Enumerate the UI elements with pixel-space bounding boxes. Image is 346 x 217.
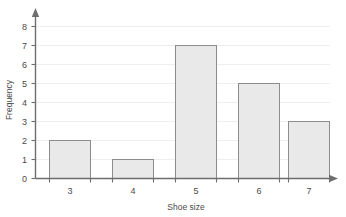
y-tick-label-1: 1 [22, 155, 27, 165]
y-tick-label-6: 6 [22, 60, 27, 70]
chart-background [0, 0, 346, 217]
y-tick-label-0: 0 [22, 174, 27, 184]
y-tick-label-7: 7 [22, 41, 27, 51]
bar-shoe-size-3 [50, 141, 91, 179]
bar-shoe-size-4 [113, 160, 154, 179]
x-axis-title: Shoe size [167, 202, 205, 212]
y-tick-label-5: 5 [22, 79, 27, 89]
x-tick-label-4: 4 [130, 186, 135, 196]
bar-shoe-size-5 [176, 46, 217, 179]
y-tick-label-8: 8 [22, 22, 27, 32]
x-tick-label-5: 5 [193, 186, 198, 196]
chart-canvas: 0 1 2 3 4 5 6 7 8 3 4 5 6 7 Shoe size Fr… [0, 0, 346, 217]
x-tick-label-3: 3 [67, 186, 72, 196]
bar-chart-figure: 0 1 2 3 4 5 6 7 8 3 4 5 6 7 Shoe size Fr… [0, 0, 346, 217]
bar-shoe-size-7 [289, 122, 330, 179]
y-axis-title: Frequency [4, 79, 14, 120]
y-tick-label-4: 4 [22, 98, 27, 108]
y-tick-label-2: 2 [22, 136, 27, 146]
x-tick-label-7: 7 [306, 186, 311, 196]
bar-shoe-size-6 [239, 84, 280, 179]
x-tick-label-6: 6 [256, 186, 261, 196]
y-axis-tick-labels: 0 1 2 3 4 5 6 7 8 [22, 22, 27, 184]
y-tick-label-3: 3 [22, 117, 27, 127]
